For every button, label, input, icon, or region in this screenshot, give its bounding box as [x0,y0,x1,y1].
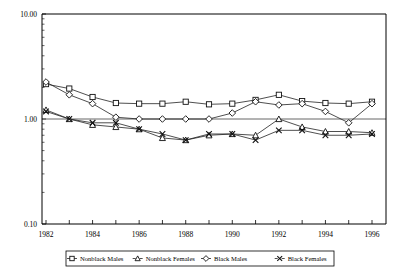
legend-item-nonblack-females[interactable]: Nonblack Females [133,255,196,262]
marker-triangle [135,256,140,261]
x-tick-label: 1990 [225,230,240,239]
x-tick-label: 1988 [178,230,193,239]
chart-container: 10.001.000.10 19821984198619881990199219… [0,0,400,277]
marker-diamond [89,100,96,107]
y-tick-label: 10.00 [20,10,37,19]
marker-square [137,101,142,106]
log-line-chart: 10.001.000.10 19821984198619881990199219… [0,0,400,277]
marker-diamond [113,114,120,121]
x-axis-ticks [46,220,372,224]
legend-label: Black Females [288,255,327,262]
legend-label: Black Males [214,255,248,262]
y-tick-label: 0.10 [24,220,37,229]
marker-diamond [66,92,73,99]
legend-label: Nonblack Males [80,255,124,262]
marker-square [276,92,281,97]
marker-square [70,256,74,260]
data-series-group [43,79,376,143]
y-tick-label: 1.00 [24,115,37,124]
marker-square [206,102,211,107]
x-axis-labels: 19821984198619881990199219941996 [39,230,380,239]
x-tick-label: 1982 [39,230,54,239]
marker-diamond [203,256,209,262]
legend-label: Nonblack Females [146,255,196,262]
marker-diamond [206,116,213,123]
x-tick-label: 1994 [318,230,333,239]
marker-diamond [322,108,329,115]
chart-legend: Nonblack MalesNonblack FemalesBlack Male… [66,251,334,266]
marker-square [230,101,235,106]
x-tick-label: 1986 [132,230,147,239]
legend-item-black-males[interactable]: Black Males [201,255,248,262]
marker-square [323,100,328,105]
marker-square [346,101,351,106]
marker-square [160,101,165,106]
marker-diamond [159,116,166,123]
marker-diamond [276,102,283,109]
y-axis-labels: 10.001.000.10 [20,10,37,229]
marker-square [113,100,118,105]
marker-square [90,94,95,99]
marker-square [183,99,188,104]
marker-square [67,86,72,91]
marker-diamond [136,116,143,123]
marker-diamond [182,116,189,123]
legend-item-black-females[interactable]: Black Females [275,255,327,262]
x-tick-label: 1996 [365,230,380,239]
legend-item-nonblack-males[interactable]: Nonblack Males [67,255,124,262]
x-tick-label: 1984 [85,230,100,239]
marker-diamond [229,110,236,117]
x-tick-label: 1992 [271,230,286,239]
